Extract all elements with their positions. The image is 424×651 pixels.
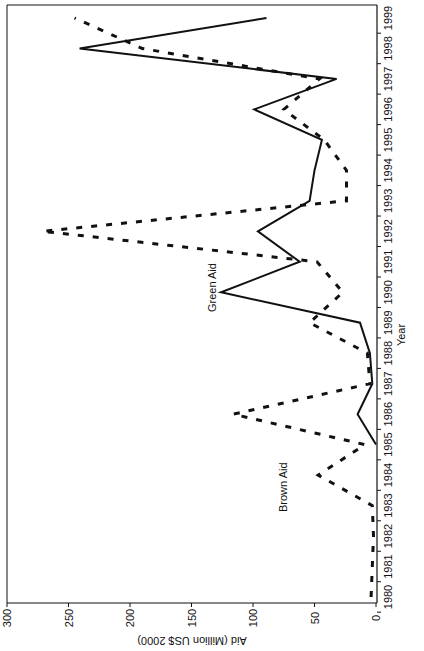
- year-tick-label: 1988: [382, 341, 394, 365]
- year-tick-label: 1992: [382, 219, 394, 243]
- green-aid-line: [80, 18, 376, 445]
- year-tick-label: 1983: [382, 493, 394, 517]
- value-tick-label: 150: [186, 609, 198, 627]
- year-tick-label: 1993: [382, 189, 394, 213]
- value-tick-label: 50: [309, 612, 321, 624]
- year-tick-label: 1998: [382, 36, 394, 60]
- year-tick-label: 1996: [382, 97, 394, 121]
- value-tick-label: 100: [247, 609, 259, 627]
- aid-line-chart: 1980198119821983198419851986198719881989…: [0, 0, 424, 651]
- value-tick-label: 300: [1, 609, 13, 627]
- axes: 1980198119821983198419851986198719881989…: [1, 5, 394, 627]
- value-tick-label: 200: [124, 609, 136, 627]
- year-tick-label: 1980: [382, 585, 394, 609]
- year-tick-label: 1986: [382, 402, 394, 426]
- year-ticks: 1980198119821983198419851986198719881989…: [377, 6, 394, 612]
- year-tick-label: 1981: [382, 554, 394, 578]
- x-axis-title: Year: [395, 324, 407, 347]
- year-tick-label: 1989: [382, 310, 394, 334]
- year-tick-label: 1987: [382, 371, 394, 395]
- green-aid-label: Green Aid: [206, 263, 218, 312]
- year-tick-label: 1982: [382, 524, 394, 548]
- year-tick-label: 1999: [382, 6, 394, 30]
- year-tick-label: 1994: [382, 158, 394, 182]
- year-tick-label: 1990: [382, 280, 394, 304]
- y-axis-title: Aid (Million US$ 2000): [137, 635, 246, 647]
- value-tick-label: 250: [63, 609, 75, 627]
- year-tick-label: 1984: [382, 463, 394, 487]
- year-tick-label: 1995: [382, 128, 394, 152]
- value-ticks: 050100150200250300: [1, 603, 382, 627]
- year-tick-label: 1991: [382, 250, 394, 274]
- brown-aid-label: Brown Aid: [277, 462, 289, 512]
- year-tick-label: 1985: [382, 432, 394, 456]
- value-tick-label: 0: [370, 615, 382, 621]
- year-tick-label: 1997: [382, 67, 394, 91]
